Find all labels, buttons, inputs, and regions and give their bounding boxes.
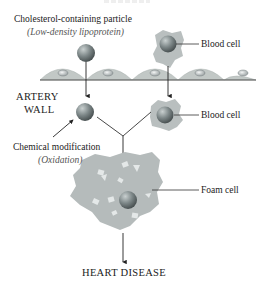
blood-cell-top-label: Blood cell (201, 39, 240, 50)
artery-wall-label-line2: WALL (24, 104, 54, 115)
particle-label: Cholesterol-containing particle (14, 14, 132, 25)
foam-cell-icon (70, 152, 163, 230)
particle-sublabel: (Low-density lipoprotein) (27, 27, 124, 38)
artery-wall-label-line1: ARTERY (16, 91, 59, 102)
ldl-particle-icon (77, 44, 95, 62)
artery-wall (40, 69, 256, 80)
heart-disease-label: HEART DISEASE (82, 267, 166, 278)
foam-cell-label: Foam cell (201, 185, 239, 196)
chemical-modification-sublabel: (Oxidation) (38, 155, 82, 166)
ldl-in-wall-icon (76, 103, 94, 121)
blood-cell-mid-label: Blood cell (201, 110, 240, 121)
chemical-modification-label: Chemical modification (13, 142, 100, 153)
